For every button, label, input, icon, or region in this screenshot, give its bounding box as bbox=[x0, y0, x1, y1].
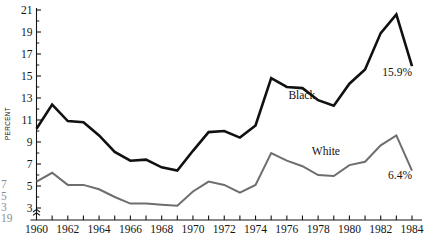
unemployment-by-race-chart: 3579111315171921 19601962196419661968197… bbox=[0, 0, 425, 241]
edge-fragment-labels: 75319 bbox=[1, 178, 13, 224]
series-line-black bbox=[37, 14, 413, 170]
y-tick-label: 7 bbox=[27, 158, 33, 170]
y-tick-label: 11 bbox=[21, 114, 32, 126]
y-tick-label: 19 bbox=[21, 26, 33, 38]
series-end-label: 6.4% bbox=[388, 169, 412, 181]
y-tick-label: 17 bbox=[21, 48, 33, 60]
series-name-label: White bbox=[312, 145, 340, 157]
x-tick-label: 1964 bbox=[88, 223, 111, 235]
series-name-label: Black bbox=[288, 89, 315, 101]
y-tick-label: 3 bbox=[27, 202, 33, 214]
chart-canvas: 3579111315171921 19601962196419661968197… bbox=[0, 0, 425, 241]
y-tick-label: 9 bbox=[27, 136, 33, 148]
x-axis: 1960196219641966196819701972197419761978… bbox=[25, 216, 424, 236]
x-tick-label: 1972 bbox=[213, 223, 236, 235]
edge-fragment: 19 bbox=[1, 212, 13, 224]
x-tick-label: 1968 bbox=[150, 223, 173, 235]
y-tick-label: 21 bbox=[21, 4, 33, 16]
x-tick-label: 1982 bbox=[369, 223, 392, 235]
series-line-white bbox=[37, 135, 413, 205]
y-axis: 3579111315171921 bbox=[21, 4, 41, 216]
x-tick-label: 1962 bbox=[56, 223, 79, 235]
x-tick-label: 1974 bbox=[244, 223, 267, 235]
series-lines bbox=[37, 14, 413, 205]
y-tick-label: 15 bbox=[21, 70, 33, 82]
x-tick-label: 1966 bbox=[119, 223, 142, 235]
series-end-label: 15.9% bbox=[382, 66, 412, 78]
x-tick-label: 1970 bbox=[181, 223, 204, 235]
y-tick-label: 13 bbox=[21, 92, 33, 104]
x-tick-label: 1976 bbox=[275, 223, 298, 235]
y-tick-label: 5 bbox=[27, 180, 33, 192]
x-tick-label: 1960 bbox=[25, 223, 48, 235]
edge-fragment: 7 bbox=[1, 178, 7, 190]
x-tick-label: 1984 bbox=[401, 223, 424, 235]
y-axis-title: PERCENT bbox=[4, 107, 11, 140]
x-tick-label: 1978 bbox=[307, 223, 330, 235]
x-tick-label: 1980 bbox=[338, 223, 361, 235]
